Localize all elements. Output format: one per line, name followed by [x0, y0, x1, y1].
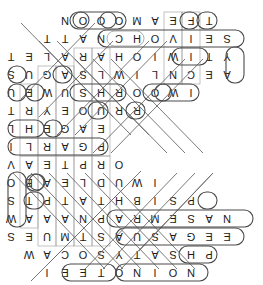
grid-letter: P	[92, 210, 110, 228]
grid-letter: H	[110, 192, 128, 210]
grid-letter: U	[128, 228, 146, 246]
grid-letter: C	[56, 246, 74, 264]
grid-letter: E	[164, 12, 182, 30]
grid-letter: C	[0, 120, 2, 138]
grid-letter: U	[110, 174, 128, 192]
grid-letter: L	[74, 174, 92, 192]
grid-letter: O	[128, 84, 146, 102]
grid-letter: I	[0, 210, 2, 228]
grid-letter: P	[92, 138, 110, 156]
grid-letter: R	[20, 102, 38, 120]
grid-letter: M	[128, 12, 146, 30]
grid-letter: E	[164, 210, 182, 228]
grid-letter: P	[74, 156, 92, 174]
grid-letter: U	[92, 102, 110, 120]
grid-letter: N	[182, 264, 200, 282]
grid-letter: F	[182, 12, 200, 30]
grid-letter: U	[2, 84, 20, 102]
grid-letter: T	[2, 48, 20, 66]
grid-letter: N	[74, 210, 92, 228]
grid-letter: C	[182, 66, 200, 84]
word-search-puzzle: NOINOTEEIPHSATYSOCAWEEGASUASTMUESNASEMRA…	[0, 0, 263, 285]
grid-letter: D	[92, 174, 110, 192]
grid-letter: S	[74, 84, 92, 102]
grid-letter: R	[38, 138, 56, 156]
rotated-puzzle-layer: NOINOTEEIPHSATYSOCAWEEGASUASTMUESNASEMRA…	[0, 0, 263, 285]
grid-letter: B	[128, 192, 146, 210]
grid-letter: A	[56, 66, 74, 84]
grid-letter: N	[56, 12, 74, 30]
grid-letter: O	[146, 30, 164, 48]
grid-letter: T	[20, 192, 38, 210]
grid-letter: E	[92, 120, 110, 138]
grid-letter: I	[146, 174, 164, 192]
grid-letter: E	[200, 30, 218, 48]
grid-letter: O	[2, 174, 20, 192]
grid-letter: T	[2, 102, 20, 120]
grid-letter: S	[92, 246, 110, 264]
grid-letter: A	[146, 246, 164, 264]
grid-letter: S	[146, 228, 164, 246]
grid-letter: G	[182, 228, 200, 246]
grid-letter: S	[164, 192, 182, 210]
grid-letter: A	[110, 228, 128, 246]
grid-letter: T	[38, 30, 56, 48]
grid-letter: W	[20, 246, 38, 264]
grid-letter: O	[74, 12, 92, 30]
grid-letter: S	[2, 228, 20, 246]
grid-letter: L	[38, 48, 56, 66]
grid-letter: A	[20, 156, 38, 174]
grid-letter: A	[38, 246, 56, 264]
grid-letter: S	[218, 30, 236, 48]
grid-letter: S	[74, 66, 92, 84]
grid-letter: A	[38, 174, 56, 192]
grid-letter: I	[146, 264, 164, 282]
grid-letter: A	[74, 30, 92, 48]
grid-letter: U	[20, 66, 38, 84]
grid-letter: R	[92, 156, 110, 174]
grid-letter: O	[146, 84, 164, 102]
grid-letter: E	[56, 102, 74, 120]
grid-letter: T	[200, 12, 218, 30]
grid-letter: W	[2, 210, 20, 228]
grid-letter: A	[218, 66, 236, 84]
grid-letter: P	[38, 192, 56, 210]
grid-letter: A	[146, 12, 164, 30]
grid-letter: A	[56, 138, 74, 156]
grid-letter: W	[110, 66, 128, 84]
grid-letter: I	[182, 48, 200, 66]
grid-letter: W	[128, 174, 146, 192]
grid-letter: O	[74, 102, 92, 120]
grid-letter: G	[56, 120, 74, 138]
grid-letter: H	[182, 246, 200, 264]
grid-letter: E	[38, 156, 56, 174]
grid-letter: O	[128, 48, 146, 66]
grid-letter: O	[110, 156, 128, 174]
grid-letter: R	[110, 102, 128, 120]
grid-letter: S	[2, 192, 20, 210]
grid-letter: R	[128, 102, 146, 120]
grid-letter: H	[128, 30, 146, 48]
grid-letter: Y	[38, 102, 56, 120]
grid-letter: Y	[218, 48, 236, 66]
grid-letter: A	[74, 192, 92, 210]
grid-letter: L	[20, 138, 38, 156]
grid-letter: H	[20, 120, 38, 138]
grid-letter: T	[92, 192, 110, 210]
grid-letter: I	[2, 138, 20, 156]
grid-letter: Y	[110, 246, 128, 264]
grid-letter: S	[2, 66, 20, 84]
grid-letter: V	[2, 156, 20, 174]
grid-letter: I	[146, 192, 164, 210]
grid-letter: O	[0, 66, 2, 84]
grid-letter: B	[0, 84, 2, 102]
grid-letter: E	[218, 228, 236, 246]
grid-letter: E	[56, 174, 74, 192]
grid-letter: L	[0, 192, 2, 210]
grid-letter: L	[146, 66, 164, 84]
grid-letter: N	[218, 210, 236, 228]
grid-letter: A	[74, 120, 92, 138]
grid-letter: I	[128, 66, 146, 84]
grid-letter: T	[74, 228, 92, 246]
grid-letter: B	[20, 174, 38, 192]
